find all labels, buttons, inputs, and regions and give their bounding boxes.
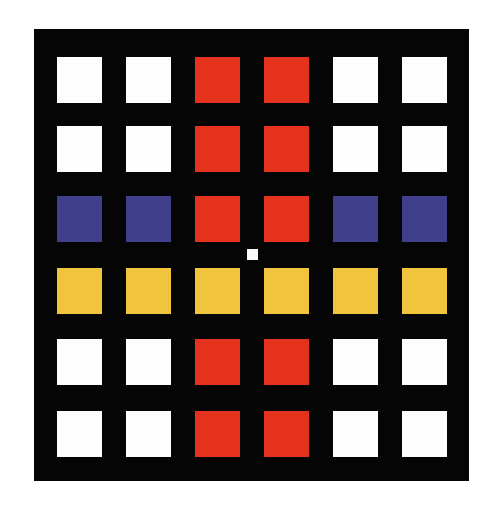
grid-square [195,411,240,457]
grid-square [195,268,240,314]
grid-square [333,126,378,172]
grid-square [195,339,240,385]
grid-square [402,339,447,385]
grid-square [402,268,447,314]
grid-square [126,268,171,314]
artwork-board [34,29,469,481]
grid-square [264,196,309,242]
grid-square [264,57,309,103]
grid-square [264,411,309,457]
grid-square [402,57,447,103]
grid-square [126,126,171,172]
grid-square [264,126,309,172]
grid-square [195,126,240,172]
grid-square [195,57,240,103]
grid-square [57,339,102,385]
grid-square [264,268,309,314]
grid-square [126,411,171,457]
grid-square [57,57,102,103]
grid-square [126,196,171,242]
grid-square [57,196,102,242]
grid-square [195,196,240,242]
grid-square [126,57,171,103]
grid-square [126,339,171,385]
grid-square [402,196,447,242]
center-dot [247,249,258,260]
grid-square [57,268,102,314]
grid-square [57,126,102,172]
grid-square [333,339,378,385]
grid-square [333,196,378,242]
grid-square [333,268,378,314]
grid-square [333,57,378,103]
grid-square [57,411,102,457]
grid-square [333,411,378,457]
grid-square [402,126,447,172]
grid-square [264,339,309,385]
grid-square [402,411,447,457]
